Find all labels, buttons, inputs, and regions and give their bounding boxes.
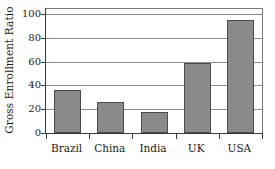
plot-area bbox=[46, 14, 262, 133]
y-axis-tick-label: 20 bbox=[28, 104, 41, 114]
x-axis-tickmark bbox=[262, 134, 263, 139]
x-axis-tick-labels: BrazilChinaIndiaUKUSA bbox=[45, 142, 263, 160]
bar-uk bbox=[184, 63, 211, 133]
x-axis-line bbox=[45, 133, 263, 134]
bar-india bbox=[141, 112, 168, 133]
x-axis-tickmark bbox=[132, 134, 133, 139]
x-axis-tickmark bbox=[176, 134, 177, 139]
bar-china bbox=[97, 102, 124, 133]
y-axis-tick-labels: 020406080100 bbox=[18, 8, 45, 134]
x-axis-tick-label: India bbox=[139, 142, 166, 154]
y-axis-tick-label: 60 bbox=[28, 57, 41, 67]
x-axis-tick-label: UK bbox=[188, 142, 205, 154]
x-axis-tick-label: Brazil bbox=[51, 142, 82, 154]
x-axis-tickmark bbox=[219, 134, 220, 139]
y-axis-title: Gross Enrollment Ratio bbox=[0, 0, 18, 140]
x-axis-tickmark bbox=[46, 134, 47, 139]
y-axis-tick-label: 100 bbox=[22, 9, 41, 19]
y-axis-tick-label: 40 bbox=[28, 80, 41, 90]
bar-brazil bbox=[54, 90, 81, 133]
x-axis-tick-label: China bbox=[94, 142, 125, 154]
bar-chart-figure: Gross Enrollment Ratio 020406080100 Braz… bbox=[0, 0, 275, 169]
x-axis-tick-label: USA bbox=[228, 142, 252, 154]
y-axis-title-label: Gross Enrollment Ratio bbox=[3, 6, 15, 133]
y-axis-tick-label: 80 bbox=[28, 33, 41, 43]
bar-usa bbox=[227, 20, 254, 133]
x-axis-tickmark bbox=[89, 134, 90, 139]
